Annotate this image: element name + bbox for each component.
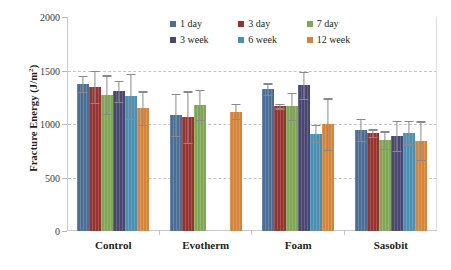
bar-slot (415, 17, 427, 231)
error-bar-cap (380, 149, 389, 150)
legend-swatch-icon (238, 21, 244, 27)
x-axis-group-separator (344, 231, 345, 235)
error-bar-cap (300, 99, 309, 100)
y-axis-tick-label: 2000 (0, 12, 60, 23)
y-axis-tick-label: 0 (0, 226, 60, 237)
bar-slot (101, 17, 113, 231)
legend-item[interactable]: 7 day (307, 18, 375, 29)
error-bar (199, 90, 200, 120)
bar-slot (125, 17, 137, 231)
error-bar-cap (276, 104, 285, 105)
error-bar (175, 94, 176, 136)
error-bar-cap (312, 125, 321, 126)
error-bar (187, 91, 188, 142)
y-axis-tick-mark (62, 71, 67, 72)
error-bar-cap (103, 114, 112, 115)
error-bar (384, 131, 385, 148)
bar-slot (379, 17, 391, 231)
bar[interactable] (403, 133, 415, 231)
bar[interactable] (298, 85, 310, 231)
y-axis-tick-mark (62, 17, 67, 18)
bar[interactable] (286, 106, 298, 231)
chart-legend: 1 day3 day7 day3 week6 week12 week (170, 18, 375, 50)
error-bar-cap (300, 72, 309, 73)
error-bar-cap (91, 103, 100, 104)
legend-item-label: 6 week (248, 34, 277, 45)
error-bar (235, 104, 236, 119)
error-bar-cap (195, 120, 204, 121)
error-bar-cap (115, 81, 124, 82)
error-bar (95, 71, 96, 103)
bar[interactable] (262, 89, 274, 231)
error-bar (396, 121, 397, 151)
bar[interactable] (230, 112, 242, 231)
error-bar-cap (380, 131, 389, 132)
legend-item-label: 1 day (180, 18, 202, 29)
bar-group (67, 17, 160, 231)
error-bar-cap (392, 151, 401, 152)
legend-swatch-icon (170, 37, 176, 43)
bar-slot (391, 17, 403, 231)
bar[interactable] (101, 95, 113, 231)
error-bar-cap (231, 104, 240, 105)
bar[interactable] (89, 87, 101, 231)
bar[interactable] (194, 105, 206, 231)
error-bar-cap (312, 142, 321, 143)
error-bar-cap (324, 98, 333, 99)
legend-item[interactable]: 3 day (238, 18, 306, 29)
error-bar-cap (276, 108, 285, 109)
legend-item[interactable]: 3 week (170, 34, 238, 45)
error-bar-cap (368, 137, 377, 138)
error-bar-cap (404, 121, 413, 122)
error-bar-cap (127, 119, 136, 120)
bar[interactable] (355, 130, 367, 231)
bar[interactable] (367, 133, 379, 231)
legend-item-label: 3 day (248, 18, 270, 29)
error-bar (420, 121, 421, 160)
legend-item[interactable]: 12 week (307, 34, 375, 45)
x-axis-group-separator (251, 231, 252, 235)
legend-swatch-icon (238, 37, 244, 43)
bar[interactable] (379, 140, 391, 231)
x-axis-category-label: Foam (252, 239, 345, 251)
error-bar (304, 72, 305, 99)
error-bar (268, 83, 269, 95)
bar-slot (89, 17, 101, 231)
bar[interactable] (274, 106, 286, 231)
legend-swatch-icon (170, 21, 176, 27)
bar-slot (113, 17, 125, 231)
x-axis-category-label: Evotherm (160, 239, 253, 251)
y-axis-tick-label: 1500 (0, 65, 60, 76)
legend-swatch-icon (307, 37, 313, 43)
y-axis-tick-label: 1000 (0, 119, 60, 130)
legend-item[interactable]: 6 week (238, 34, 306, 45)
error-bar-cap (171, 136, 180, 137)
error-bar (143, 91, 144, 124)
error-bar (131, 74, 132, 119)
error-bar-cap (91, 71, 100, 72)
x-axis-category-label: Control (67, 239, 160, 251)
error-bar-cap (356, 141, 365, 142)
error-bar-cap (171, 94, 180, 95)
legend-item-label: 12 week (317, 34, 351, 45)
error-bar-cap (139, 91, 148, 92)
error-bar-cap (103, 75, 112, 76)
error-bar-cap (115, 102, 124, 103)
legend-swatch-icon (307, 21, 313, 27)
bar[interactable] (113, 91, 125, 231)
error-bar-cap (404, 144, 413, 145)
bar-slot (137, 17, 149, 231)
legend-item[interactable]: 1 day (170, 18, 238, 29)
y-axis-tick-mark (62, 124, 67, 125)
error-bar-cap (288, 93, 297, 94)
error-bar-cap (416, 121, 425, 122)
bar[interactable] (137, 108, 149, 231)
x-axis-category-label: Sasobit (345, 239, 438, 251)
error-bar-cap (368, 129, 377, 130)
bar[interactable] (310, 134, 322, 231)
error-bar-cap (139, 125, 148, 126)
legend-item-label: 3 week (180, 34, 209, 45)
bar[interactable] (77, 84, 89, 231)
error-bar-cap (264, 83, 273, 84)
error-bar-cap (127, 74, 136, 75)
